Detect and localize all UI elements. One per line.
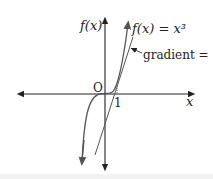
x-axis-label: x: [186, 94, 194, 109]
y-axis-label: f(x): [79, 18, 102, 33]
origin-label: O: [93, 81, 103, 95]
tangent-label: gradient = 3: [143, 48, 213, 62]
tick-label-1: 1: [114, 96, 122, 110]
cubic-tangent-diagram: f(x) f(x) = x³ gradient = 3 O 1 x: [0, 0, 213, 179]
curve-label: f(x) = x³: [131, 21, 186, 36]
tangent-pointer-arrow: [133, 49, 142, 53]
